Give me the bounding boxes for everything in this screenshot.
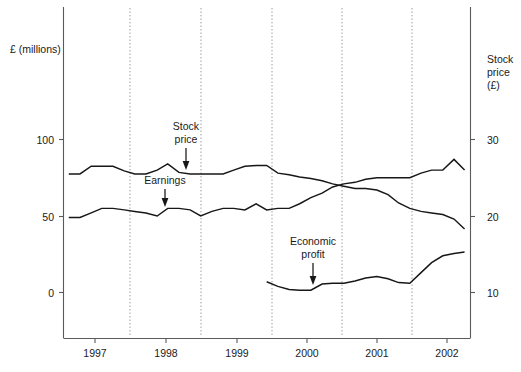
series-line-stock-price	[69, 164, 465, 229]
annotation-earnings-label: Earnings	[144, 174, 185, 186]
xtick-label-2001: 2001	[365, 347, 389, 359]
series-line-economic-profit	[267, 252, 465, 290]
ytick-label-0: 0	[48, 287, 54, 299]
xtick-label-1997: 1997	[83, 347, 107, 359]
annotation-stock-price-line1: Stock	[173, 120, 200, 132]
annotation-economic-profit-line2: profit	[301, 248, 324, 260]
annotation-economic-profit-arrowhead	[310, 276, 317, 285]
xtick-label-1999: 1999	[225, 347, 249, 359]
y-axis-right-title-line2: price	[487, 66, 510, 78]
xtick-label-2000: 2000	[295, 347, 319, 359]
xtick-label-2002: 2002	[435, 347, 459, 359]
annotation-stock-price-arrowhead	[183, 161, 190, 170]
y-axis-right-title-line3: (£)	[487, 79, 500, 91]
y-axis-left-title: £ (millions)	[10, 43, 61, 55]
y-axis-right-title-line1: Stock	[487, 53, 514, 65]
y2tick-label-10: 10	[487, 287, 499, 299]
series-group	[69, 159, 465, 290]
gridlines-vertical	[130, 8, 412, 336]
ytick-label-100: 100	[36, 134, 54, 146]
axes	[64, 7, 471, 339]
x-axis-ticks	[95, 339, 447, 344]
line-chart: £ (millions) Stock price (£) 100 50 0 30…	[0, 0, 521, 372]
annotation-stock-price-line2: price	[175, 133, 198, 145]
annotation-economic-profit-line1: Economic	[290, 235, 336, 247]
annotation-earnings-arrowhead	[162, 198, 169, 207]
chart-container: £ (millions) Stock price (£) 100 50 0 30…	[0, 0, 521, 372]
annotation-economic-profit: Economic profit	[290, 235, 336, 285]
ytick-label-50: 50	[42, 211, 54, 223]
annotation-earnings: Earnings	[144, 174, 185, 207]
annotation-stock-price: Stock price	[173, 120, 200, 170]
xtick-label-1998: 1998	[154, 347, 178, 359]
series-line-earnings	[69, 159, 465, 217]
y2tick-label-20: 20	[487, 211, 499, 223]
y2tick-label-30: 30	[487, 134, 499, 146]
y-axis-ticks	[59, 140, 475, 293]
